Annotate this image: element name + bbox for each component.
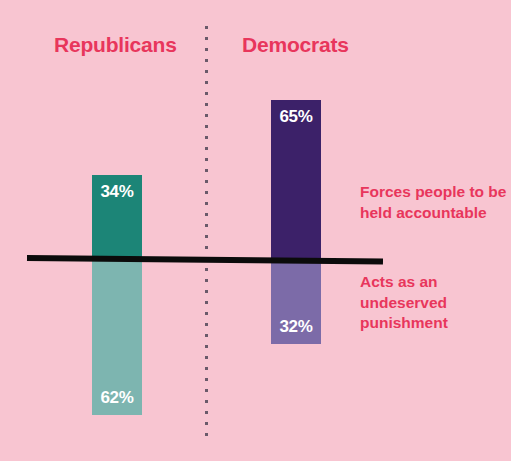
bar-segment-republicans-accountable: 34% (92, 175, 142, 260)
group-heading-republicans: Republicans (54, 33, 177, 57)
bar-segment-democrats-punishment: 32% (271, 262, 321, 344)
legend-label-accountable: Forces people to be held accountable (360, 182, 510, 223)
bar-value-democrats-accountable: 65% (271, 107, 321, 127)
bar-segment-democrats-accountable: 65% (271, 100, 321, 262)
bar-democrats: 65% 32% (271, 100, 321, 344)
bar-value-republicans-punishment: 62% (92, 388, 142, 408)
bar-republicans: 34% 62% (92, 175, 142, 415)
bar-value-republicans-accountable: 34% (92, 182, 142, 202)
group-heading-democrats: Democrats (242, 33, 349, 57)
bar-segment-republicans-punishment: 62% (92, 260, 142, 415)
legend-label-punishment: Acts as an undeserved punishment (360, 272, 510, 334)
group-separator-dotted-line (204, 22, 209, 436)
bar-value-democrats-punishment: 32% (271, 317, 321, 337)
diverging-bar-chart: Republicans Democrats 34% 62% 65% 32% Fo… (0, 0, 511, 461)
